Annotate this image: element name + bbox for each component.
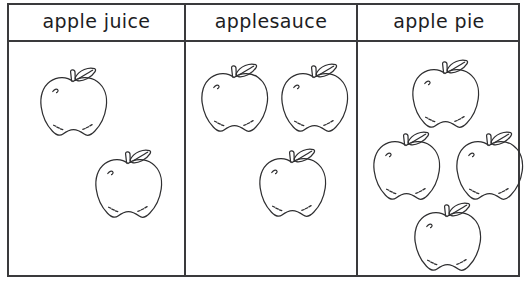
apple-icon [38,65,110,145]
column-header-apple-juice: apple juice [9,3,184,40]
apple-icon [410,57,482,137]
header-row-divider [7,40,520,42]
apple-icon [199,61,271,141]
apple-icon [371,129,443,209]
apple-icon [257,146,329,226]
column-header-apple-pie: apple pie [358,3,520,40]
column-divider-2 [356,3,358,277]
apple-icon [93,147,165,227]
apple-icon [412,200,484,280]
apple-icon [454,129,526,209]
apple-icon [279,61,351,141]
column-divider-1 [184,3,186,277]
column-header-applesauce: applesauce [186,3,356,40]
apple-picture-graph-worksheet: apple juice applesauce apple pie [0,0,526,282]
